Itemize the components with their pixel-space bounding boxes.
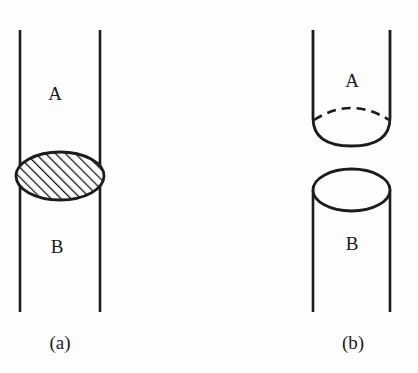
panel-a-label-b: B: [51, 236, 64, 257]
tube-diagram-svg: A B (a) A B (b): [0, 0, 418, 373]
panel-b-label-b: B: [346, 233, 359, 254]
panel-a-label-a: A: [48, 83, 62, 104]
panel-b-lower-tube-rim: [313, 169, 390, 211]
panel-b-caption: (b): [342, 332, 364, 354]
panel-a-caption: (a): [49, 332, 70, 354]
figure-container: A B (a) A B (b): [0, 0, 418, 373]
panel-b-label-a: A: [345, 70, 359, 91]
